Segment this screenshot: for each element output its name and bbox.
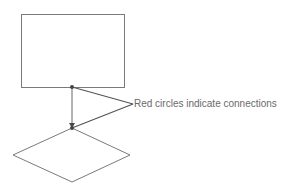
decision-diamond[interactable] (13, 128, 130, 182)
callout-line-bottom (72, 104, 133, 128)
callout-label: Red circles indicate connections (134, 97, 277, 110)
connection-point-bottom[interactable] (70, 126, 74, 130)
connection-point-top[interactable] (70, 85, 74, 89)
callout-line-top (72, 87, 133, 104)
process-box[interactable] (22, 15, 125, 88)
